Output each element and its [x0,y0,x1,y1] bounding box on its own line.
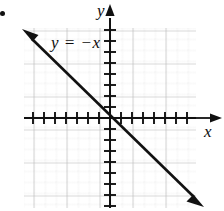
x-axis-label: x [204,122,212,142]
graph-figure: y = −x y x [0,0,224,211]
item-bullet [0,11,5,16]
line-equation-label: y = −x [51,33,101,53]
y-axis-label: y [97,1,105,21]
coordinate-plane-svg [0,0,224,211]
